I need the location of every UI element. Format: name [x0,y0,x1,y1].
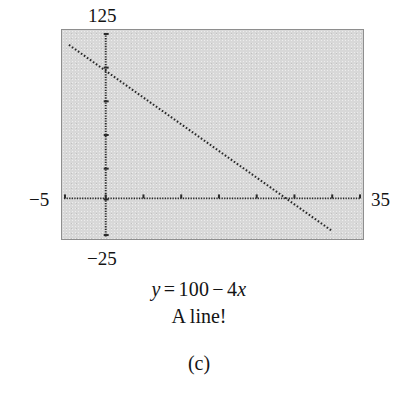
figure-index-label: (c) [0,352,398,375]
equation-equals: = [161,278,179,300]
data-series-line [69,45,332,231]
equation-variable: x [237,278,246,300]
x-axis [64,194,361,198]
x-axis-min-label: −5 [29,190,49,209]
plot-canvas [62,30,363,239]
equation-lhs: y [152,278,161,300]
figure-panel-c: 125 −25 −5 35 y=100−4x A line! (c) [0,0,398,395]
caption-equation: y=100−4x [0,278,398,301]
equation-operator: − [209,278,227,300]
y-axis-min-label: −25 [87,249,117,268]
x-axis-max-label: 35 [371,190,390,209]
plot-area [61,29,364,240]
caption-note: A line! [0,305,398,328]
y-axis-max-label: 125 [88,6,117,25]
series-y-equals-100-minus-4x [69,45,332,231]
equation-intercept: 100 [178,278,209,300]
equation-coefficient: 4 [227,278,237,300]
y-axis [104,33,109,237]
